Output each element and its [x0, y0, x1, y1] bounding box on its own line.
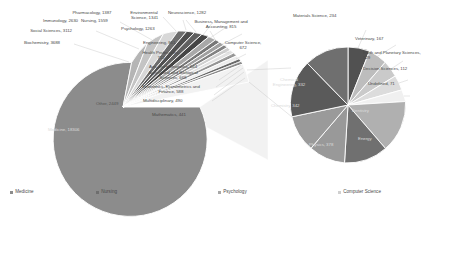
legend-swatch-icon — [218, 191, 221, 194]
label-decision-sciences: Decision Sciences, 112 — [363, 66, 407, 71]
label-nursing: Nursing, 1559 — [81, 18, 108, 23]
legend-item[interactable]: Computer Science — [338, 186, 449, 199]
label-other: Other, 2449 — [96, 101, 118, 106]
label-computer-science: Computer Science, 672 — [224, 40, 262, 50]
label-chemistry: Chemistry, 342 — [271, 103, 300, 108]
label-dentistry: Dentistry — [352, 108, 369, 113]
label-economics: Economics, Econometrics and Finance, 588 — [139, 84, 203, 94]
label-social-sciences: Social Sciences, 3112 — [2, 28, 72, 33]
label-mathematics: Mathematics, 441 — [152, 112, 186, 117]
label-materials-science: Materials Science, 234 — [293, 13, 336, 18]
pie-chart-area: Pharmacology, 1387 Environmental Science… — [0, 0, 449, 182]
label-environmental-science: Environmental Science, 1341 — [122, 10, 166, 20]
label-engineering: Engineering, 861 — [143, 40, 175, 45]
legend-item-label: Computer Science — [343, 189, 381, 195]
label-arts-humanities: Arts and Humanities, 644 — [149, 64, 197, 69]
label-veterinary: Veterinary, 167 — [355, 36, 383, 41]
label-psychology: Psychology, 1263 — [121, 26, 155, 31]
label-neuroscience: Neuroscience, 1282 — [168, 10, 206, 15]
label-multidisciplinary: Multidisciplinary, 490 — [143, 98, 182, 103]
chart-legend: MedicineNursingPsychologyComputer Scienc… — [0, 182, 449, 279]
legend-swatch-icon — [338, 191, 341, 194]
label-agricultural-biological: Agricultural and Biological Sciences, 66… — [146, 70, 200, 80]
legend-item-label: Medicine — [15, 189, 33, 195]
label-earth-planetary: Earth and Planetary Sciences, 129 — [363, 50, 421, 60]
other-breakdown-pie — [290, 47, 405, 163]
label-biochemistry: Biochemistry, 3688 — [0, 40, 60, 45]
label-physics: Physics, 378 — [309, 142, 333, 147]
legend-item[interactable]: Psychology — [218, 186, 336, 199]
legend-item[interactable]: Medicine — [10, 186, 94, 199]
label-chemical-engineering: Chemical Engineering, 332 — [269, 77, 309, 87]
legend-item-label: Psychology — [223, 189, 247, 195]
legend-item-label: Nursing — [101, 189, 117, 195]
legend-swatch-icon — [10, 191, 13, 194]
label-pharmacology: Pharmacology, 1387 — [62, 10, 122, 15]
legend-grid: MedicineNursingPsychologyComputer Scienc… — [10, 186, 443, 199]
label-medicine: Medicine, 18306 — [48, 127, 79, 132]
legend-swatch-icon — [96, 191, 99, 194]
label-health-professions: Health Professions, 712 — [139, 50, 183, 60]
label-undefined: Undefined, 71 — [368, 81, 395, 86]
legend-item[interactable]: Nursing — [96, 186, 216, 199]
label-business: Business, Management and Accounting, 815 — [186, 19, 256, 29]
label-energy: Energy — [358, 136, 372, 141]
label-immunology: Immunology, 2630 — [20, 18, 78, 23]
